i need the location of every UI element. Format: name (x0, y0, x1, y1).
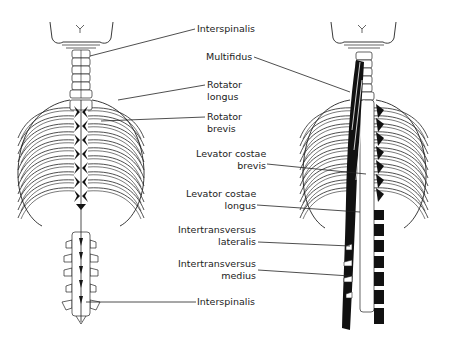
skull-base-left (50, 22, 113, 43)
label-interspinalis-bottom: Interspinalis (197, 296, 255, 308)
label-multifidus: Multifidus (206, 51, 252, 63)
label-rotator-longus: Rotator longus (207, 79, 242, 103)
label-interspinalis-top: Interspinalis (197, 23, 255, 35)
label-levator-costae-brevis: Levator costae brevis (196, 148, 266, 172)
skull-base-right (331, 22, 396, 43)
label-rotator-brevis: Rotator brevis (207, 111, 242, 135)
label-intertransversus-lateralis: Intertransversus lateralis (176, 224, 256, 248)
right-skeleton (300, 22, 428, 330)
anatomy-figure: Interspinalis Rotator longus Rotator bre… (0, 0, 452, 342)
left-skeleton (18, 22, 144, 324)
label-intertransversus-medius: Intertransversus medius (176, 258, 256, 282)
label-levator-costae-longus: Levator costae longus (186, 188, 256, 212)
